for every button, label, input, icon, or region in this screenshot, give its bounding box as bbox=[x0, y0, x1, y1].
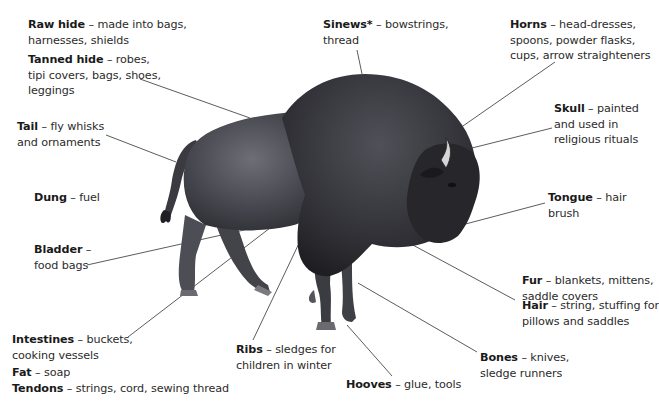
bison-body bbox=[160, 74, 479, 330]
label-term: Tanned hide bbox=[28, 53, 103, 66]
label-skull: Skull – painted and used in religious ri… bbox=[554, 101, 639, 148]
label-tail: Tail – fly whisks and ornaments bbox=[17, 119, 104, 150]
label-bones: Bones – knives, sledge runners bbox=[480, 350, 569, 381]
label-term: Tendons bbox=[12, 382, 63, 395]
label-ribs: Ribs – sledges for children in winter bbox=[236, 342, 336, 373]
label-term: Horns bbox=[510, 18, 547, 31]
label-term: Tail bbox=[17, 120, 38, 133]
label-tendons: Tendons – strings, cord, sewing thread bbox=[12, 381, 229, 397]
label-fat: Fat – soap bbox=[12, 365, 70, 381]
label-bladder: Bladder – food bags bbox=[34, 242, 91, 273]
label-term: Sinews* bbox=[323, 18, 373, 31]
label-term: Hair bbox=[522, 299, 548, 312]
label-tanned-hide: Tanned hide – robes, tipi covers, bags, … bbox=[28, 52, 161, 99]
label-term: Intestines bbox=[12, 333, 74, 346]
label-intestines: Intestines – buckets, cooking vessels bbox=[12, 332, 133, 363]
label-term: Hooves bbox=[346, 378, 392, 391]
label-term: Bones bbox=[480, 351, 518, 364]
label-horns: Horns – head-dresses, spoons, powder fla… bbox=[510, 17, 651, 64]
label-term: Ribs bbox=[236, 343, 263, 356]
label-term: Bladder bbox=[34, 243, 82, 256]
label-hooves: Hooves – glue, tools bbox=[346, 377, 461, 393]
label-hair: Hair – string, stuffing for pillows and … bbox=[522, 298, 659, 329]
label-term: Fur bbox=[522, 274, 542, 287]
label-tongue: Tongue – hair brush bbox=[548, 190, 626, 221]
label-sinews: Sinews* – bowstrings, thread bbox=[323, 17, 449, 48]
label-term: Fat bbox=[12, 366, 32, 379]
label-term: Skull bbox=[554, 102, 585, 115]
label-term: Tongue bbox=[548, 191, 593, 204]
label-term: Dung bbox=[34, 191, 67, 204]
label-term: Raw hide bbox=[28, 18, 85, 31]
label-dung: Dung – fuel bbox=[34, 190, 100, 206]
label-raw-hide: Raw hide – made into bags, harnesses, sh… bbox=[28, 17, 187, 48]
